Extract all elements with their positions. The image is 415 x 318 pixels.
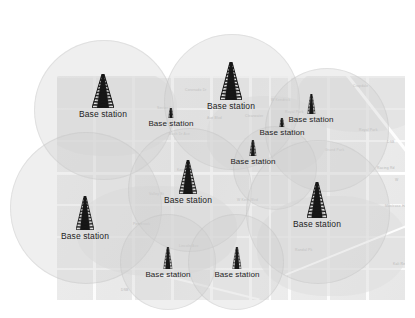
base-station-label: Base station xyxy=(293,219,341,229)
base-station-3[interactable]: Base station xyxy=(207,62,255,111)
base-station-8[interactable]: Base station xyxy=(61,196,109,241)
tower-icon xyxy=(220,62,242,100)
base-station-label: Base station xyxy=(207,101,255,111)
tower-icon xyxy=(76,196,94,230)
base-station-label: Base station xyxy=(214,270,259,279)
base-station-label: Base station xyxy=(259,128,304,137)
tower-icon xyxy=(307,94,315,114)
base-station-7[interactable]: Base station xyxy=(164,160,212,205)
map-place-label: Kali Res xyxy=(393,262,405,266)
base-station-2[interactable]: Base station xyxy=(148,108,193,128)
map-place-label: DSB xyxy=(387,140,395,144)
base-station-6[interactable]: Base station xyxy=(230,140,275,166)
base-station-5[interactable]: Base station xyxy=(259,118,304,137)
base-station-9[interactable]: Base station xyxy=(293,182,341,229)
tower-icon xyxy=(92,74,114,108)
coverage-map-figure: Coronado DrSector CtAve BlvdBush Dr AveC… xyxy=(0,0,415,318)
tower-icon xyxy=(279,118,284,127)
base-station-label: Base station xyxy=(61,231,109,241)
map-place-label: W xyxy=(395,178,398,182)
base-station-label: Base station xyxy=(148,119,193,128)
tower-icon xyxy=(249,140,256,156)
tower-icon xyxy=(163,247,172,269)
base-station-11[interactable]: Base station xyxy=(214,247,259,279)
tower-icon xyxy=(307,182,327,218)
base-station-1[interactable]: Base station xyxy=(79,74,127,119)
tower-icon xyxy=(179,160,197,194)
tower-icon xyxy=(232,247,241,269)
tower-icon xyxy=(168,108,173,118)
base-station-10[interactable]: Base station xyxy=(145,247,190,279)
base-station-label: Base station xyxy=(79,109,127,119)
base-station-label: Base station xyxy=(145,270,190,279)
map-place-label: Racing Rd xyxy=(377,166,395,170)
base-station-label: Base station xyxy=(230,157,275,166)
base-station-label: Base station xyxy=(164,195,212,205)
